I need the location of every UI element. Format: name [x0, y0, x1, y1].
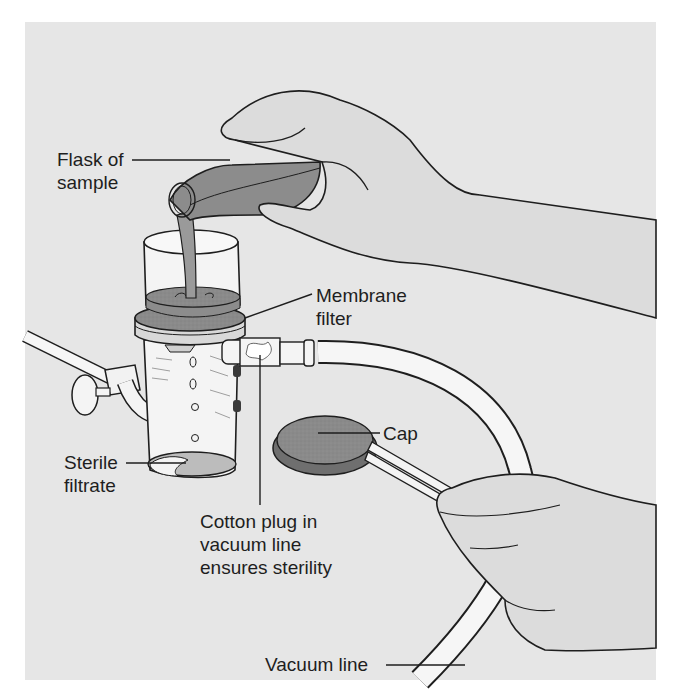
illustration: [0, 0, 680, 700]
leader-membrane: [245, 294, 312, 318]
vacuum-connector: [222, 338, 314, 366]
label-membrane-filter: Membrane filter: [316, 284, 407, 330]
label-flask-of-sample: Flask of sample: [57, 148, 124, 194]
clamp-knob: [72, 375, 98, 415]
cap: [273, 416, 377, 475]
membrane-filtration-diagram: Flask of sample Membrane filter Sterile …: [0, 0, 680, 700]
label-vacuum-line: Vacuum line: [265, 653, 368, 676]
label-cap: Cap: [383, 422, 418, 445]
label-cotton-plug: Cotton plug in vacuum line ensures steri…: [200, 510, 332, 579]
label-sterile-filtrate: Sterile filtrate: [64, 451, 118, 497]
